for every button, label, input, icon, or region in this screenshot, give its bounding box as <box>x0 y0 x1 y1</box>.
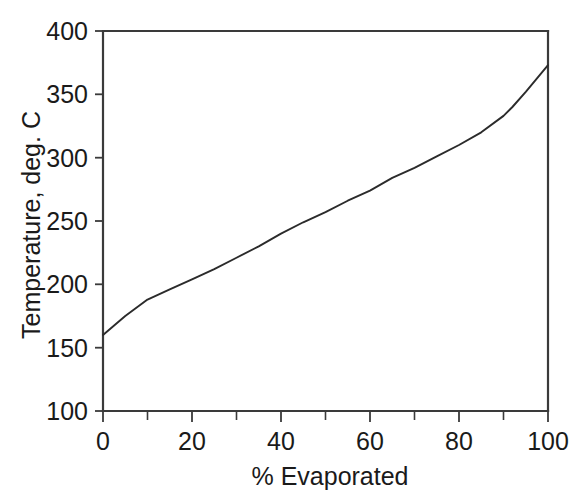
chart-figure: 400 350 300 250 200 150 100 0 20 40 60 8… <box>0 0 585 499</box>
y-tick-label-300: 300 <box>46 144 88 172</box>
y-tick-label-350: 350 <box>46 80 88 108</box>
x-tick-label-100: 100 <box>527 427 569 455</box>
y-tick-label-250: 250 <box>46 207 88 235</box>
x-minor-tick-marks <box>148 411 504 420</box>
y-axis-title: Temperature, deg. C <box>17 111 45 339</box>
y-tick-marks <box>95 31 103 411</box>
y-tick-label-200: 200 <box>46 270 88 298</box>
x-tick-label-80: 80 <box>445 427 473 455</box>
distillation-curve-chart: 400 350 300 250 200 150 100 0 20 40 60 8… <box>0 0 585 499</box>
x-tick-label-0: 0 <box>96 427 110 455</box>
y-tick-labels: 400 350 300 250 200 150 100 <box>46 17 88 425</box>
y-tick-label-400: 400 <box>46 17 88 45</box>
plot-frame <box>103 31 548 411</box>
y-tick-label-150: 150 <box>46 334 88 362</box>
x-tick-label-20: 20 <box>178 427 206 455</box>
x-tick-label-60: 60 <box>356 427 384 455</box>
x-axis-title: % Evaporated <box>251 462 408 490</box>
y-tick-label-100: 100 <box>46 397 88 425</box>
x-tick-label-40: 40 <box>267 427 295 455</box>
data-series-distillation-curve <box>103 65 548 335</box>
x-tick-labels: 0 20 40 60 80 100 <box>96 427 569 455</box>
